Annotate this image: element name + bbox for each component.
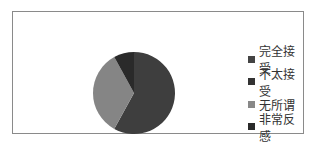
legend-label: 非常反感 xyxy=(259,110,303,144)
legend-item-feichangfangan: 非常反感 xyxy=(248,116,303,139)
pie-chart xyxy=(92,51,176,135)
legend-label: 不太接受 xyxy=(259,65,303,99)
legend-swatch-icon xyxy=(248,101,255,108)
chart-frame: 完全接受 不太接受 无所谓 非常反感 xyxy=(12,11,304,134)
legend-swatch-icon xyxy=(248,78,255,85)
legend-swatch-icon xyxy=(248,56,255,63)
legend: 完全接受 不太接受 无所谓 非常反感 xyxy=(248,48,303,138)
legend-item-butaijieshou: 不太接受 xyxy=(248,71,303,94)
legend-swatch-icon xyxy=(248,123,255,130)
